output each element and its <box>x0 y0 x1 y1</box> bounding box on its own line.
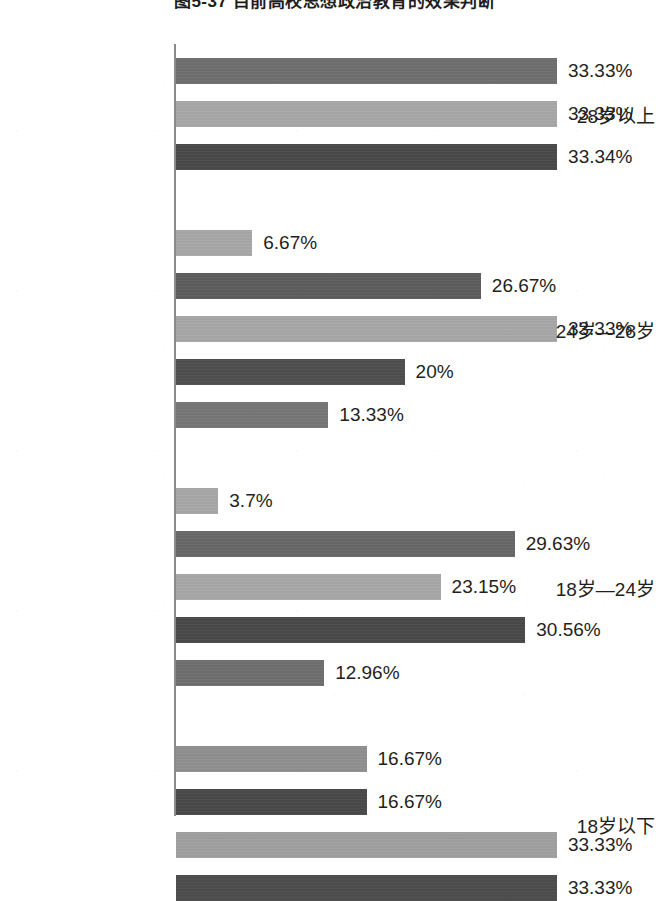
bar-value-label: 6.67% <box>263 232 317 254</box>
bar-value-label: 26.67% <box>492 275 556 297</box>
bar[interactable] <box>176 832 557 858</box>
bar-value-label: 33.33% <box>568 877 632 899</box>
bar[interactable] <box>176 230 252 256</box>
bar-value-label: 29.63% <box>526 533 590 555</box>
bar[interactable] <box>176 144 557 170</box>
bar[interactable] <box>176 359 405 385</box>
bar-row: 3.7% <box>176 488 576 514</box>
bar[interactable] <box>176 660 324 686</box>
bar-value-label: 33.34% <box>568 146 632 168</box>
bar-value-label: 20% <box>416 361 454 383</box>
bar-row: 30.56% <box>176 617 576 643</box>
bar-row: 13.33% <box>176 402 576 428</box>
bar-value-label: 3.7% <box>229 490 272 512</box>
bar[interactable] <box>176 58 557 84</box>
bar[interactable] <box>176 488 218 514</box>
bar-row: 20% <box>176 359 576 385</box>
bar[interactable] <box>176 746 367 772</box>
bar-row: 6.67% <box>176 230 576 256</box>
bar-value-label: 13.33% <box>339 404 403 426</box>
bar-row: 33.33% <box>176 875 576 901</box>
bar-row: 29.63% <box>176 531 576 557</box>
bar-value-label: 30.56% <box>536 619 600 641</box>
bar-value-label: 33.33% <box>568 60 632 82</box>
bar-row: 33.33% <box>176 58 576 84</box>
bar-row: 16.67% <box>176 746 576 772</box>
bar[interactable] <box>176 316 557 342</box>
bar-value-label: 33.33% <box>568 834 632 856</box>
bar-row: 26.67% <box>176 273 576 299</box>
bar[interactable] <box>176 617 525 643</box>
category-label-1: 28岁以上 <box>501 101 669 128</box>
category-label-2: 24岁—28岁 <box>501 316 669 343</box>
bar-row: 33.34% <box>176 144 576 170</box>
category-label-4: 18岁以下 <box>501 810 669 837</box>
bar[interactable] <box>176 574 441 600</box>
bar-row: 12.96% <box>176 660 576 686</box>
bar[interactable] <box>176 273 481 299</box>
bar-value-label: 16.67% <box>378 748 442 770</box>
bar[interactable] <box>176 531 515 557</box>
bar-value-label: 16.67% <box>378 791 442 813</box>
category-label-3: 18岁—24岁 <box>501 574 669 601</box>
bar-value-label: 12.96% <box>335 662 399 684</box>
bar[interactable] <box>176 875 557 901</box>
bar[interactable] <box>176 789 367 815</box>
bar[interactable] <box>176 402 328 428</box>
bar[interactable] <box>176 101 557 127</box>
